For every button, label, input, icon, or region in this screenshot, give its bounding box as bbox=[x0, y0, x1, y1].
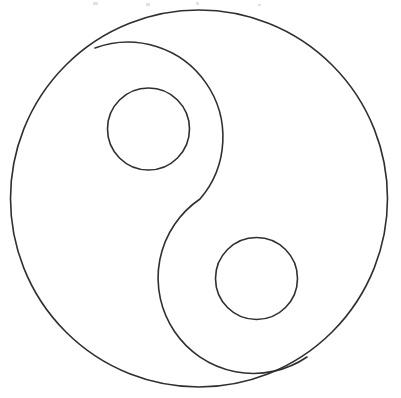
lower-small-circle bbox=[216, 238, 298, 320]
yin-yang-figure bbox=[0, 0, 401, 398]
scan-speck-1 bbox=[93, 2, 98, 5]
scan-speck-3 bbox=[196, 2, 199, 5]
outer-circle bbox=[11, 10, 388, 387]
scan-speck-4 bbox=[258, 4, 261, 6]
scan-speck-2 bbox=[146, 3, 150, 6]
s-curve-divider bbox=[95, 42, 307, 373]
drawing-canvas bbox=[0, 0, 401, 398]
upper-small-circle bbox=[108, 88, 190, 170]
